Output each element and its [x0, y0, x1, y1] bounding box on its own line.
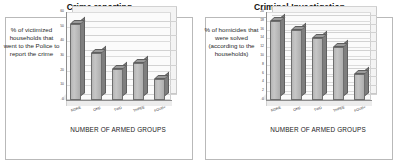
bar-column	[291, 30, 302, 100]
x-axis-line	[266, 100, 372, 101]
gridline	[72, 6, 177, 7]
y-axis-description-left: % of victimized households that went to …	[3, 26, 60, 58]
bar-column	[270, 21, 281, 100]
y-axis-tick-label: 20	[53, 69, 64, 72]
bar-side-face	[81, 16, 85, 96]
y-axis-tick-label: 0	[53, 98, 64, 101]
bar-front-face	[333, 47, 344, 100]
bar-side-face	[323, 31, 327, 96]
y-axis-tick-label: 2	[253, 89, 264, 92]
panel-criminal-investigation: Criminal Investigation % of homicides th…	[200, 0, 399, 166]
y-axis-tick-label: 30	[53, 54, 64, 57]
y-axis-tick-label: 10	[253, 54, 264, 57]
bar-series	[266, 12, 371, 100]
bar-column	[133, 63, 144, 100]
bar-front-face	[91, 53, 102, 100]
figure-root: Crime reporting % of victimized househol…	[0, 0, 399, 166]
bar-side-face	[281, 13, 285, 96]
bar-front-face	[154, 79, 165, 100]
x-axis-line	[66, 100, 172, 101]
bar-column	[333, 47, 344, 100]
y-axis-tick-label: 6	[253, 72, 264, 75]
y-axis-description-right: % of homicides that were solved (accordi…	[203, 26, 260, 58]
bar-front-face	[354, 74, 365, 100]
bar-column	[112, 69, 123, 100]
bar-front-face	[133, 63, 144, 100]
y-axis-tick-label: 60	[53, 10, 64, 13]
plot-area-right: 02468101214161820NONEONETWOTHREEFOUR+	[260, 6, 384, 121]
y-axis-tick-label: 16	[253, 28, 264, 31]
y-axis-tick-label: 4	[253, 80, 264, 83]
bar-front-face	[270, 21, 281, 100]
y-axis-tick-label: 50	[53, 25, 64, 28]
bar-front-face	[112, 69, 123, 100]
bar-front-face	[70, 24, 81, 100]
x-axis-title-right: NUMBER OF ARMED GROUPS	[248, 126, 388, 133]
bar-front-face	[291, 30, 302, 100]
bar-column	[91, 53, 102, 100]
y-axis-tick-label: 8	[253, 63, 264, 66]
bar-side-face	[302, 22, 306, 96]
plot-area-left: 0102030405060NONEONETWOTHREEFOUR+	[60, 6, 184, 121]
panel-crime-reporting: Crime reporting % of victimized househol…	[0, 0, 199, 166]
y-axis-tick-label: 40	[53, 39, 64, 42]
y-axis-tick-label: 20	[253, 10, 264, 13]
bar-column	[312, 38, 323, 100]
bar-front-face	[312, 38, 323, 100]
y-axis-tick-label: 0	[253, 98, 264, 101]
bar-column	[154, 79, 165, 100]
y-axis-tick-label: 14	[253, 36, 264, 39]
y-axis-tick-label: 18	[253, 19, 264, 22]
bar-series	[66, 12, 171, 100]
bar-side-face	[102, 46, 106, 96]
bar-column	[70, 24, 81, 100]
x-axis-title-left: NUMBER OF ARMED GROUPS	[48, 126, 188, 133]
bar-side-face	[344, 40, 348, 96]
y-axis-tick-label: 12	[253, 45, 264, 48]
bar-column	[354, 74, 365, 100]
gridline	[272, 6, 377, 7]
y-axis-tick-label: 10	[53, 83, 64, 86]
